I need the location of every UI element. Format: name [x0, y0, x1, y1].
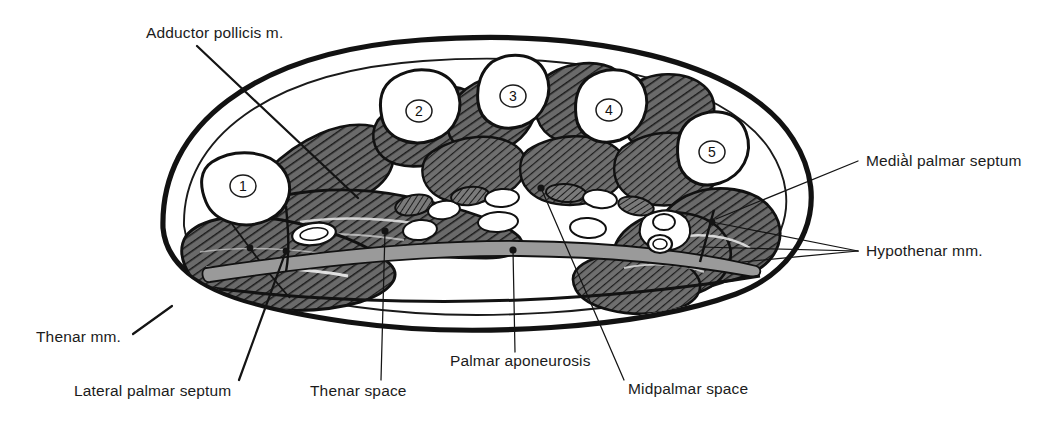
metacarpal-3-number: 3: [509, 88, 517, 104]
leader-dot-thenar-space: [381, 227, 388, 234]
label-lateral-palmar-septum: Lateral palmar septum: [74, 382, 231, 399]
label-thenar-mm: Thenar mm.: [36, 328, 121, 345]
leader-dot-midpalmar-space: [537, 184, 544, 191]
metacarpal-5-number: 5: [708, 144, 716, 160]
metacarpal-4-number: 4: [605, 102, 613, 118]
label-thenar-space: Thenar space: [310, 382, 407, 399]
leader-dot-lateral-septum: [283, 248, 290, 255]
metacarpal-4-marker: 4: [596, 99, 622, 121]
leader-dot-hypothenar-1: [709, 219, 716, 226]
label-midpalmar-space: Midpalmar space: [628, 380, 748, 397]
label-adductor-pollicis: Adductor pollicis m.: [146, 24, 283, 41]
leader-thenar-mm: [133, 306, 172, 334]
leader-dot-thenar-mm: [247, 245, 254, 252]
metacarpal-3-marker: 3: [500, 85, 526, 107]
anatomical-cross-section-figure: 1 2 3 4 5: [0, 0, 1047, 428]
hand-cross-section-svg: 1 2 3 4 5: [0, 0, 1047, 428]
label-hypothenar-mm: Hypothenar mm.: [866, 242, 983, 259]
leader-dot-palmar-aponeurosis: [509, 246, 516, 253]
metacarpal-5-marker: 5: [699, 141, 725, 163]
label-medial-palmar-septum: Medià̀l palmar septum: [866, 152, 1021, 169]
metacarpal-2-number: 2: [415, 103, 423, 119]
label-palmar-aponeurosis: Palmar aponeurosis: [450, 352, 591, 369]
metacarpal-2-marker: 2: [406, 100, 432, 122]
metacarpal-1-marker: 1: [230, 175, 256, 197]
metacarpal-1-number: 1: [239, 178, 247, 194]
